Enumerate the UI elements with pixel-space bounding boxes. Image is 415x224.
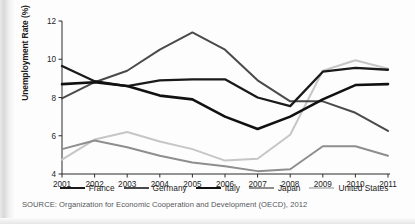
y-tick-label: 10 [47, 55, 57, 64]
legend-swatch-icon [124, 187, 149, 189]
y-tick-label: 6 [51, 132, 56, 141]
legend-swatch-icon [309, 187, 334, 189]
legend-item-italy: Italy [196, 183, 240, 193]
legend-item-united-states: United States [309, 183, 388, 193]
legend-swatch-icon [60, 187, 85, 189]
legend-label: Italy [225, 183, 240, 193]
legend-item-germany: Germany [124, 183, 187, 193]
chart-axes: 4681012200120022003200420052006200720082… [47, 17, 397, 189]
legend-swatch-icon [196, 187, 221, 189]
series-line-france [62, 66, 388, 106]
series-line-italy [62, 82, 388, 129]
legend-label: Japan [278, 183, 301, 193]
y-tick-label: 8 [51, 94, 56, 103]
legend-label: France [89, 183, 115, 193]
series-line-japan [62, 141, 388, 172]
chart-series [62, 32, 388, 171]
legend-item-france: France [60, 183, 115, 193]
figure-page: Unemployment Rate (%) 468101220012002200… [0, 0, 415, 224]
y-tick-label: 4 [51, 170, 56, 179]
source-note: SOURCE: Organization for Economic Cooper… [22, 200, 307, 209]
y-tick-label: 12 [47, 17, 57, 26]
legend-label: United States [338, 183, 388, 193]
legend-item-japan: Japan [249, 183, 301, 193]
chart-legend: FranceGermanyItalyJapanUnited States [44, 183, 404, 193]
legend-swatch-icon [249, 187, 274, 189]
legend-label: Germany [153, 183, 187, 193]
